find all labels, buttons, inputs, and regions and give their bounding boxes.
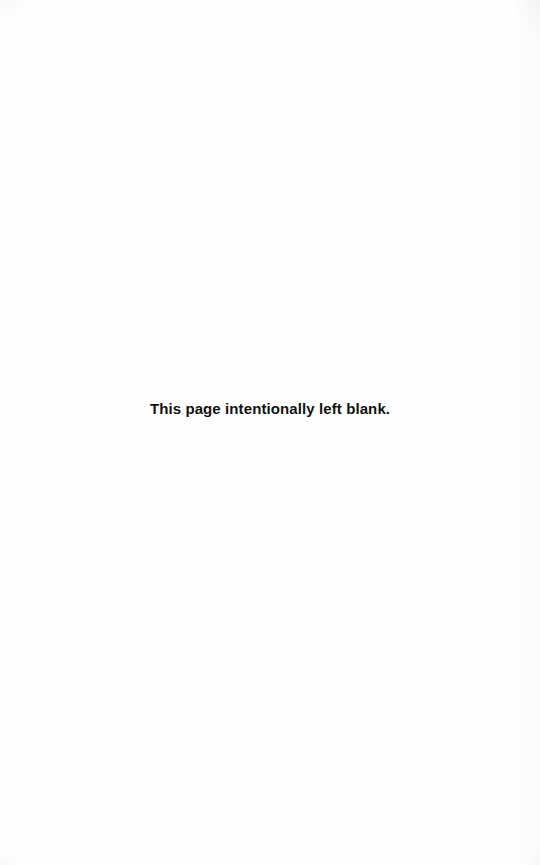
document-page: This page intentionally left blank. <box>0 0 540 865</box>
blank-page-notice: This page intentionally left blank. <box>0 400 540 417</box>
